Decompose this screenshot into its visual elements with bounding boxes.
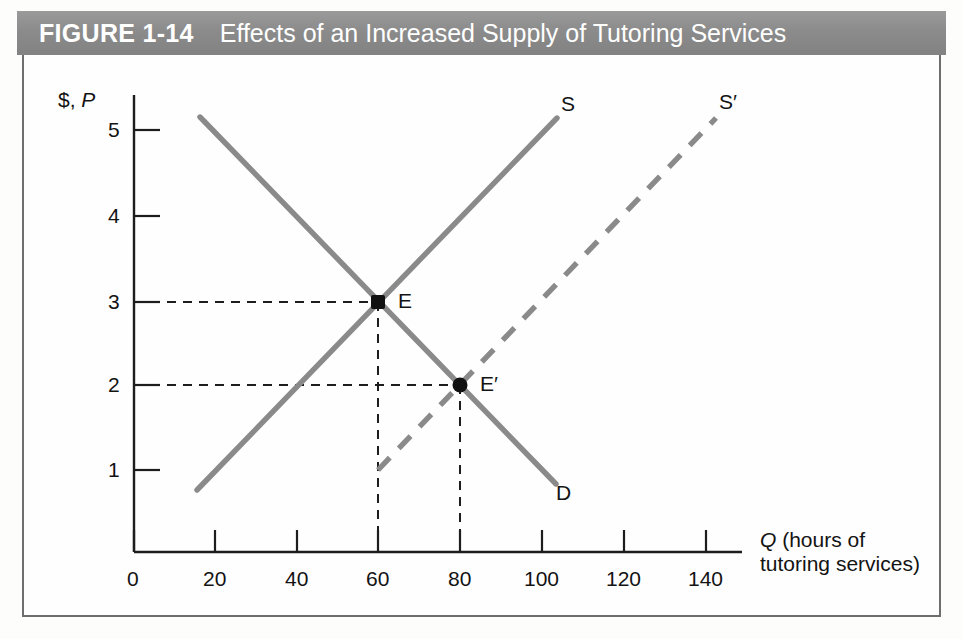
x-tick-label-60: 60	[366, 567, 389, 591]
x-tick-label-20: 20	[203, 567, 226, 591]
y-axis-title: $, P	[58, 88, 95, 112]
x-tick-label-0: 0	[127, 567, 139, 591]
equilibrium-point-e-prime-label: E′	[480, 372, 498, 396]
x-axis-title-line1-rest: (hours of	[776, 528, 865, 551]
x-axis-title: Q (hours of tutoring services)	[760, 528, 920, 575]
supply-curve-label: S	[561, 92, 575, 116]
y-tick-label-3: 3	[108, 290, 120, 314]
x-axis-title-line2: tutoring services)	[760, 552, 920, 576]
figure-number: FIGURE 1-14	[39, 19, 194, 48]
x-tick-label-100: 100	[524, 567, 559, 591]
y-axis-title-symbol: P	[81, 88, 95, 111]
y-tick-label-5: 5	[108, 118, 120, 142]
supply-curve-shifted-label: S′	[719, 90, 737, 114]
y-axis-title-prefix: $,	[58, 88, 76, 111]
x-tick-label-120: 120	[606, 567, 641, 591]
x-axis-title-symbol: Q	[760, 528, 776, 551]
figure-title: Effects of an Increased Supply of Tutori…	[220, 19, 787, 48]
x-tick-label-40: 40	[285, 567, 308, 591]
x-axis-title-line1: Q (hours of	[760, 528, 920, 552]
equilibrium-point-e-label: E	[398, 289, 412, 313]
y-tick-label-1: 1	[108, 458, 120, 482]
figure-container: FIGURE 1-14 Effects of an Increased Supp…	[0, 0, 963, 639]
x-tick-label-140: 140	[688, 567, 723, 591]
figure-header-bar: FIGURE 1-14 Effects of an Increased Supp…	[17, 11, 946, 55]
y-tick-label-4: 4	[108, 204, 120, 228]
demand-curve-label: D	[556, 481, 571, 505]
y-tick-label-2: 2	[108, 373, 120, 397]
x-tick-label-80: 80	[448, 567, 471, 591]
